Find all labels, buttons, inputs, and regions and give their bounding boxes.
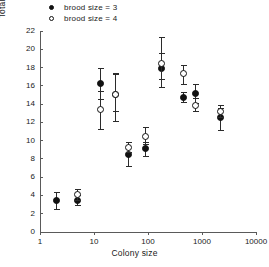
y-tick-label: 22	[26, 25, 35, 36]
filled-circle-marker	[180, 94, 187, 101]
error-bar-cap-lower	[113, 111, 119, 112]
error-bar-cap-upper	[193, 98, 199, 99]
error-bar-cap-lower	[54, 209, 60, 210]
error-bar-cap-lower	[181, 102, 187, 103]
scatter-plot-figure: brood size = 3 brood size = 4 Total food…	[0, 0, 269, 267]
error-bar-cap-lower	[159, 87, 165, 88]
error-bar-cap-lower	[193, 111, 199, 112]
x-tick-label: 10000	[245, 237, 267, 246]
error-bar-cap-lower	[143, 156, 149, 157]
error-bar-cap-upper	[113, 73, 119, 74]
error-bar-cap-upper	[98, 91, 104, 92]
error-bar-cap-lower	[113, 121, 119, 122]
y-tick-mark	[40, 31, 43, 32]
x-axis-title: Colony size	[0, 248, 269, 258]
error-bar-cap-upper	[54, 192, 60, 193]
error-bar-cap-upper	[126, 142, 132, 143]
open-circle-marker	[112, 91, 119, 98]
error-bar-cap-lower	[126, 152, 132, 153]
y-tick-label: 12	[26, 116, 35, 127]
open-circle-marker	[142, 133, 149, 140]
open-circle-marker	[192, 102, 199, 109]
legend-item-brood-size-4: brood size = 4	[46, 13, 117, 24]
y-tick-label: 10	[26, 135, 35, 146]
chart-legend: brood size = 3 brood size = 4	[46, 2, 117, 24]
error-bar-cap-upper	[159, 53, 165, 54]
y-tick-mark	[40, 67, 43, 68]
x-tick-label: 1	[38, 237, 42, 246]
y-tick-mark	[40, 49, 43, 50]
y-tick-mark	[40, 104, 43, 105]
filled-circle-marker	[192, 90, 199, 97]
y-tick-label: 8	[31, 153, 35, 164]
x-tick-mark	[94, 232, 95, 235]
y-tick-label: 6	[31, 171, 35, 182]
error-bar-cap-upper	[98, 68, 104, 69]
y-tick-label: 2	[31, 208, 35, 219]
x-tick-label: 100	[141, 237, 154, 246]
error-bar-cap-lower	[75, 205, 81, 206]
open-circle-marker	[180, 70, 187, 77]
y-tick-label: 4	[31, 189, 35, 200]
filled-circle-marker	[53, 197, 60, 204]
y-axis-line	[40, 31, 41, 232]
open-circle-marker	[217, 108, 224, 115]
error-bar-cap-upper	[181, 65, 187, 66]
plot-area: 0246810121416182022 110100100010000	[40, 31, 256, 232]
legend-label: brood size = 4	[64, 14, 117, 23]
error-bar-cap-upper	[143, 127, 149, 128]
error-bar-cap-lower	[98, 99, 104, 100]
open-circle-marker	[125, 144, 132, 151]
error-bar-cap-lower	[218, 117, 224, 118]
error-bar-cap-lower	[143, 144, 149, 145]
y-tick-mark	[40, 140, 43, 141]
y-tick-mark	[40, 85, 43, 86]
x-tick-mark	[40, 232, 41, 235]
error-bar-cap-lower	[98, 129, 104, 130]
x-tick-mark	[256, 232, 257, 235]
error-bar-cap-lower	[218, 130, 224, 131]
x-tick-mark	[202, 232, 203, 235]
y-tick-mark	[40, 195, 43, 196]
error-bar-cap-upper	[218, 105, 224, 106]
x-tick-label: 1000	[193, 237, 211, 246]
y-tick-mark	[40, 213, 43, 214]
error-bar-cap-lower	[159, 79, 165, 80]
y-tick-label: 16	[26, 80, 35, 91]
y-tick-label: 18	[26, 62, 35, 73]
error-bar-cap-lower	[126, 166, 132, 167]
x-tick-label: 10	[90, 237, 99, 246]
x-tick-mark	[148, 232, 149, 235]
error-bar-cap-upper	[159, 37, 165, 38]
legend-item-brood-size-3: brood size = 3	[46, 2, 117, 13]
error-bar-cap-upper	[143, 142, 149, 143]
legend-label: brood size = 3	[64, 3, 117, 12]
error-bar-cap-upper	[113, 74, 119, 75]
open-circle-marker	[74, 191, 81, 198]
error-bar-cap-upper	[193, 84, 199, 85]
y-tick-mark	[40, 122, 43, 123]
filled-circle-marker	[142, 145, 149, 152]
error-bar-cap-upper	[75, 189, 81, 190]
open-circle-marker	[97, 106, 104, 113]
filled-circle-marker	[97, 80, 104, 87]
y-tick-label: 14	[26, 98, 35, 109]
y-tick-mark	[40, 177, 43, 178]
error-bar-cap-lower	[181, 84, 187, 85]
error-bar-cap-upper	[181, 92, 187, 93]
error-bar-cap-lower	[75, 200, 81, 201]
y-axis-title: Total food deliveries to brood by both p…	[0, 0, 7, 30]
y-tick-label: 20	[26, 43, 35, 54]
filled-circle-icon	[46, 5, 57, 10]
error-bar	[161, 37, 162, 78]
y-tick-mark	[40, 158, 43, 159]
y-tick-label: 0	[31, 226, 35, 237]
open-circle-icon	[46, 16, 57, 21]
